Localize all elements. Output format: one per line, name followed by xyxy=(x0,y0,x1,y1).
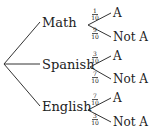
leaf-spanish-a: A xyxy=(113,50,122,62)
leaf-math-a: A xyxy=(113,7,122,19)
prob-math-a: 110 xyxy=(91,8,99,21)
branch-math: Math xyxy=(42,16,77,29)
branch-spanish: Spanish xyxy=(42,58,95,71)
prob-english-not-a: 310 xyxy=(91,113,99,126)
leaf-english-not-a: Not A xyxy=(113,116,148,128)
leaf-spanish-not-a: Not A xyxy=(113,73,148,85)
prob-math-not-a: 910 xyxy=(91,27,99,40)
leaf-math-not-a: Not A xyxy=(113,31,148,43)
leaf-english-a: A xyxy=(113,92,122,104)
prob-spanish-not-a: 710 xyxy=(91,71,99,84)
prob-english-a: 710 xyxy=(91,93,99,106)
prob-spanish-a: 310 xyxy=(91,51,99,64)
branch-english: English xyxy=(42,100,92,113)
